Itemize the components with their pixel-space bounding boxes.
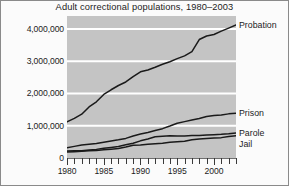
series-label-probation: Probation xyxy=(239,20,277,30)
x-tick-label: 1985 xyxy=(94,166,113,176)
x-tick xyxy=(140,158,141,165)
x-tick xyxy=(199,158,200,164)
x-tick xyxy=(111,158,112,164)
x-tick xyxy=(82,158,83,164)
x-tick xyxy=(170,158,171,164)
gridlines xyxy=(67,29,236,126)
x-tick xyxy=(148,158,149,164)
x-tick xyxy=(74,158,75,164)
x-tick xyxy=(67,158,68,165)
x-tick xyxy=(185,158,186,164)
x-axis-labels: 19801985199019952000 xyxy=(1,166,289,180)
y-tick-label: 3,000,000 xyxy=(27,56,64,66)
series-label-jail: Jail xyxy=(239,139,252,149)
x-tick xyxy=(229,158,230,164)
chart-title: Adult correctional populations, 1980–200… xyxy=(1,2,288,12)
x-tick-label: 1980 xyxy=(58,166,77,176)
series-legend: ProbationPrisonParoleJail xyxy=(239,16,289,158)
x-tick xyxy=(118,158,119,164)
y-tick-label: 1,000,000 xyxy=(27,121,64,131)
series-line-parole xyxy=(67,133,236,151)
x-tick xyxy=(207,158,208,164)
y-tick-label: 2,000,000 xyxy=(27,88,64,98)
x-tick xyxy=(214,158,215,165)
x-tick xyxy=(221,158,222,164)
x-tick-label: 2000 xyxy=(205,166,224,176)
plot-area xyxy=(67,16,236,158)
x-tick-label: 1990 xyxy=(131,166,150,176)
x-axis-baseline xyxy=(67,158,236,159)
series-lines xyxy=(67,25,236,152)
x-axis-ticks xyxy=(67,158,236,166)
series-line-probation xyxy=(67,25,236,122)
x-tick xyxy=(177,158,178,165)
x-tick xyxy=(133,158,134,164)
series-label-parole: Parole xyxy=(239,128,264,138)
plot-lines xyxy=(67,16,236,158)
x-tick xyxy=(163,158,164,164)
y-tick-label: 4,000,000 xyxy=(27,24,64,34)
x-tick xyxy=(126,158,127,164)
x-tick-label: 1995 xyxy=(168,166,187,176)
x-tick xyxy=(89,158,90,164)
y-tick-label: 0 xyxy=(59,153,64,163)
x-tick xyxy=(104,158,105,165)
series-label-prison: Prison xyxy=(239,108,264,118)
chart-figure: Adult correctional populations, 1980–200… xyxy=(0,0,289,186)
series-line-prison xyxy=(67,113,236,147)
x-tick xyxy=(96,158,97,164)
x-tick xyxy=(192,158,193,164)
x-tick xyxy=(155,158,156,164)
y-axis: 01,000,0002,000,0003,000,0004,000,000 xyxy=(1,16,64,158)
x-tick xyxy=(236,158,237,164)
